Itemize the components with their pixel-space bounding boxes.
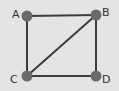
edge-a-b xyxy=(27,15,96,16)
edge-b-c xyxy=(27,15,96,76)
node-label-b: B xyxy=(102,7,110,18)
node-label-d: D xyxy=(102,74,110,85)
node-c xyxy=(22,71,33,82)
node-b xyxy=(91,10,102,21)
node-d xyxy=(91,71,102,82)
node-label-c: C xyxy=(10,74,18,85)
node-label-a: A xyxy=(12,9,20,20)
node-a xyxy=(22,11,33,22)
edges-group xyxy=(27,15,96,76)
